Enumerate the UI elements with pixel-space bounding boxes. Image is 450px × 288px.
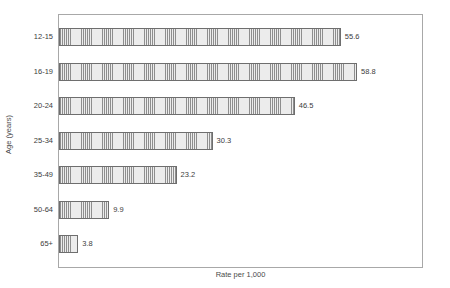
- bar: [59, 235, 78, 253]
- category-label: 16-19: [1, 63, 53, 81]
- plot-area: 12-1555.616-1958.820-2446.525-3430.335-4…: [58, 14, 423, 268]
- category-label: 50-64: [1, 201, 53, 219]
- category-label: 12-15: [1, 28, 53, 46]
- category-label: 35-49: [1, 166, 53, 184]
- value-label: 9.9: [109, 201, 123, 219]
- value-label: 23.2: [177, 166, 196, 184]
- value-label: 46.5: [295, 97, 314, 115]
- bar: [59, 63, 357, 81]
- bar-row: 16-1958.8: [59, 63, 450, 81]
- bar-row: 12-1555.6: [59, 28, 450, 46]
- bar-row: 65+3.8: [59, 235, 450, 253]
- chart-title: [0, 0, 450, 4]
- value-label: 58.8: [357, 63, 376, 81]
- bar-row: 50-649.9: [59, 201, 450, 219]
- category-label: 65+: [1, 235, 53, 253]
- bar: [59, 97, 295, 115]
- bar-row: 25-3430.3: [59, 132, 450, 150]
- value-label: 55.6: [341, 28, 360, 46]
- bar-row: 35-4923.2: [59, 166, 450, 184]
- x-axis-title: Rate per 1,000: [58, 270, 423, 279]
- value-label: 30.3: [213, 132, 232, 150]
- bar: [59, 28, 341, 46]
- bar: [59, 201, 109, 219]
- bar: [59, 166, 177, 184]
- category-label: 20-24: [1, 97, 53, 115]
- bar: [59, 132, 213, 150]
- value-label: 3.8: [78, 235, 92, 253]
- category-label: 25-34: [1, 132, 53, 150]
- bar-row: 20-2446.5: [59, 97, 450, 115]
